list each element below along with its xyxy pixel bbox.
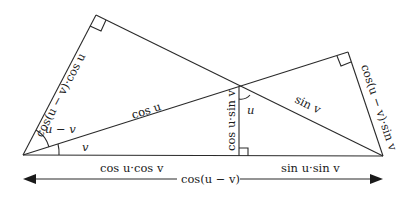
label-sin-v: sin v — [293, 92, 324, 117]
diagram-svg: cos(u − v)·cos u cos(u − v)·sin v cos u … — [0, 0, 406, 198]
base-line — [23, 155, 383, 156]
angle-arc-u — [239, 95, 250, 99]
right-angle-marker-right — [337, 56, 351, 66]
label-angle-u: u — [247, 103, 254, 117]
label-cos-u: cos u — [130, 99, 163, 121]
arrowhead-left-icon — [23, 174, 36, 184]
label-vertical: cos u·sin v — [224, 89, 238, 151]
label-base-left: cos u·cos v — [100, 161, 164, 175]
label-total: cos(u − v) — [181, 172, 240, 186]
right-angle-marker-bottom — [239, 148, 248, 156]
arrowhead-right-icon — [370, 174, 383, 184]
angle-arc-v — [58, 144, 59, 155]
label-angle-v: v — [82, 140, 89, 154]
trig-identity-diagram: cos(u − v)·cos u cos(u − v)·sin v cos u … — [0, 0, 406, 198]
label-right-side: cos(u − v)·sin v — [358, 63, 400, 153]
label-base-right: sin u·sin v — [281, 161, 340, 175]
label-angle-u-minus-v: u − v — [45, 122, 76, 136]
